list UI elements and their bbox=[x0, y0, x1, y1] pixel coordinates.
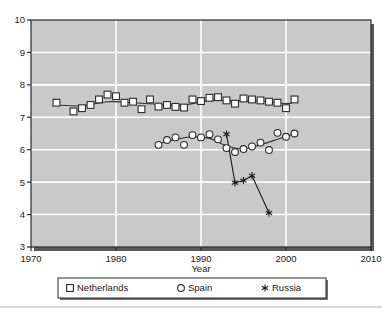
data-point-square bbox=[291, 96, 298, 103]
x-tick-label: 2010 bbox=[360, 253, 381, 264]
data-point-square bbox=[138, 106, 145, 113]
data-point-square bbox=[249, 96, 256, 103]
data-point-square bbox=[283, 105, 290, 112]
data-point-circle bbox=[198, 134, 205, 141]
data-point-square bbox=[266, 98, 273, 105]
y-axis: 345678910 bbox=[14, 14, 31, 252]
data-point-circle bbox=[215, 136, 222, 143]
data-point-circle bbox=[274, 129, 281, 136]
data-point-circle bbox=[172, 134, 179, 141]
data-point-square bbox=[130, 98, 137, 105]
data-point-square bbox=[96, 96, 103, 103]
data-point-circle bbox=[223, 145, 230, 152]
data-point-circle bbox=[189, 132, 196, 139]
y-tick-label: 7 bbox=[20, 112, 25, 123]
data-point-circle bbox=[155, 141, 162, 148]
legend-label-russia: Russia bbox=[272, 282, 302, 293]
data-point-circle bbox=[164, 137, 171, 144]
legend-circle-icon bbox=[178, 285, 185, 292]
data-point-square bbox=[147, 96, 154, 103]
data-point-circle bbox=[266, 147, 273, 154]
y-tick-label: 10 bbox=[14, 14, 25, 25]
legend-square-icon bbox=[67, 285, 74, 292]
y-tick-label: 6 bbox=[20, 144, 25, 155]
data-point-square bbox=[206, 94, 213, 101]
y-tick-label: 8 bbox=[20, 79, 25, 90]
data-point-square bbox=[240, 95, 247, 102]
x-tick-label: 1970 bbox=[20, 253, 41, 264]
data-point-square bbox=[87, 102, 94, 109]
chart-legend[interactable]: NetherlandsSpainRussia bbox=[58, 278, 328, 300]
data-point-square bbox=[172, 104, 179, 111]
data-point-square bbox=[104, 91, 111, 98]
x-tick-label: 2000 bbox=[275, 253, 296, 264]
y-tick-label: 9 bbox=[20, 47, 25, 58]
data-point-square bbox=[164, 102, 171, 109]
y-tick-label: 3 bbox=[20, 241, 25, 252]
data-point-square bbox=[155, 103, 162, 110]
data-point-square bbox=[53, 99, 60, 106]
data-point-square bbox=[257, 97, 264, 104]
data-point-circle bbox=[257, 139, 264, 146]
line-chart: 345678910 19701980199020002010 Year Neth… bbox=[0, 0, 382, 310]
data-point-square bbox=[113, 93, 120, 100]
data-point-circle bbox=[206, 131, 213, 138]
data-point-square bbox=[232, 100, 239, 107]
data-point-square bbox=[215, 94, 222, 101]
data-point-square bbox=[198, 98, 205, 105]
data-point-circle bbox=[283, 133, 290, 140]
data-point-square bbox=[274, 99, 281, 106]
data-point-circle bbox=[249, 143, 256, 150]
data-point-square bbox=[181, 104, 188, 111]
data-point-square bbox=[70, 108, 77, 115]
data-point-square bbox=[223, 97, 230, 104]
y-tick-label: 4 bbox=[20, 209, 25, 220]
x-tick-label: 1980 bbox=[105, 253, 126, 264]
chart-figure: 345678910 19701980199020002010 Year Neth… bbox=[0, 0, 382, 310]
data-point-square bbox=[189, 96, 196, 103]
x-axis-title: Year bbox=[191, 263, 210, 274]
data-point-square bbox=[121, 99, 128, 106]
legend-label-spain: Spain bbox=[188, 282, 212, 293]
data-point-circle bbox=[232, 149, 239, 156]
data-point-circle bbox=[291, 130, 298, 137]
data-point-circle bbox=[181, 141, 188, 148]
data-point-square bbox=[79, 105, 86, 112]
data-point-circle bbox=[240, 146, 247, 153]
y-tick-label: 5 bbox=[20, 177, 25, 188]
legend-label-netherlands: Netherlands bbox=[77, 282, 128, 293]
